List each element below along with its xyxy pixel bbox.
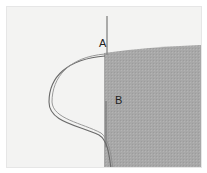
fabric-swatch xyxy=(104,45,202,168)
photo-frame: A B xyxy=(6,6,202,168)
label-a: A xyxy=(99,38,106,49)
label-b: B xyxy=(115,95,122,106)
thread-loop xyxy=(49,56,111,168)
sewing-illustration xyxy=(7,7,202,168)
thread-loop-inner xyxy=(52,54,113,168)
